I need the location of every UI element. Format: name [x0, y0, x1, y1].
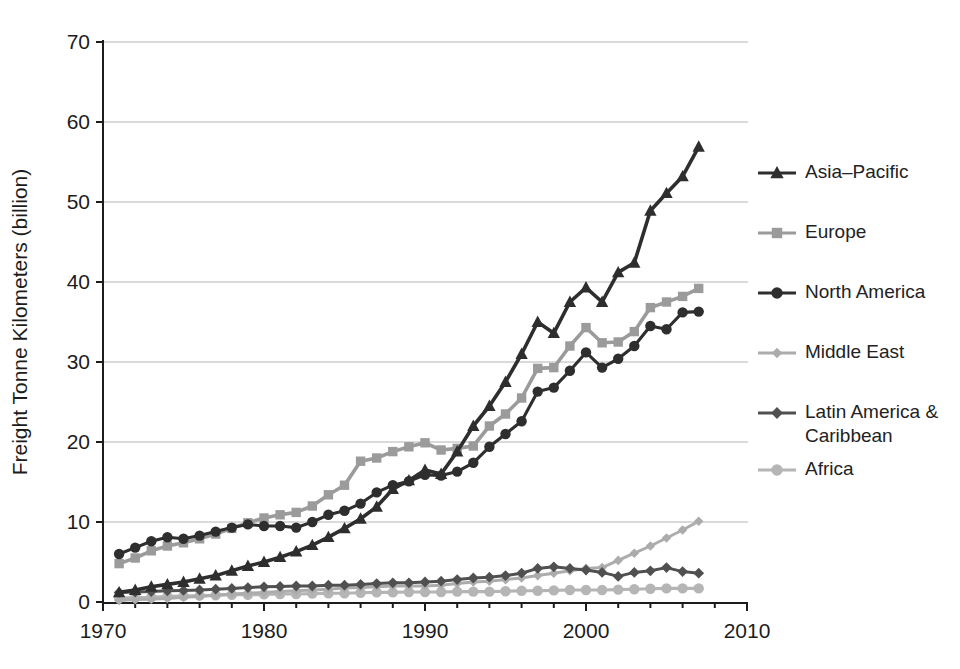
data-point-marker [614, 337, 623, 346]
data-point-marker [147, 546, 156, 555]
data-point-marker [468, 458, 478, 468]
diamond-marker-icon [756, 405, 798, 421]
data-point-marker [580, 281, 592, 292]
data-point-marker [549, 363, 558, 372]
data-point-marker [275, 521, 285, 531]
data-point-marker [130, 542, 140, 552]
data-point-marker [516, 416, 526, 426]
data-point-marker [292, 508, 301, 517]
series-line [119, 312, 699, 554]
data-point-marker [771, 287, 782, 298]
legend-label: North America [805, 280, 941, 304]
data-point-marker [162, 532, 172, 542]
data-point-marker [532, 563, 543, 574]
data-point-marker [452, 466, 462, 476]
data-point-marker [469, 441, 478, 450]
triangle-marker-icon [756, 165, 798, 181]
data-point-marker [484, 586, 494, 596]
data-point-marker [630, 548, 640, 558]
data-point-marker [485, 421, 494, 430]
data-point-marker [211, 526, 221, 536]
data-point-marker [613, 571, 624, 582]
data-point-marker [646, 541, 656, 551]
data-point-marker [677, 583, 687, 593]
data-point-marker [661, 562, 672, 573]
data-point-marker [533, 364, 542, 373]
data-point-marker [114, 549, 124, 559]
data-point-marker [324, 490, 333, 499]
data-point-marker [662, 297, 671, 306]
data-point-marker [645, 321, 655, 331]
data-point-marker [629, 341, 639, 351]
legend-item-north-america: North America [756, 280, 941, 304]
data-point-marker [565, 366, 575, 376]
data-point-marker [146, 536, 156, 546]
data-point-marker [194, 530, 204, 540]
series-asia-pacific [113, 140, 705, 597]
diamond-marker-icon [756, 345, 798, 361]
data-point-marker [694, 306, 704, 316]
data-point-marker [372, 453, 381, 462]
y-tick-label: 70 [67, 30, 90, 53]
data-point-marker [677, 307, 687, 317]
y-tick-label: 30 [67, 350, 90, 373]
data-point-marker [500, 586, 510, 596]
legend-item-middle-east: Middle East [756, 340, 941, 364]
data-point-marker [581, 323, 590, 332]
data-point-marker [163, 541, 172, 550]
data-point-marker [581, 585, 591, 595]
y-tick-label: 20 [67, 430, 90, 453]
x-axis-tick-labels: 19701980199020002010 [80, 619, 771, 642]
series-europe [114, 284, 703, 569]
data-point-marker [549, 585, 559, 595]
data-point-marker [388, 447, 397, 456]
data-point-marker [404, 442, 413, 451]
data-point-marker [677, 566, 688, 577]
x-tick-label: 2000 [563, 619, 610, 642]
data-point-marker [771, 464, 782, 475]
legend-label: Middle East [805, 340, 941, 364]
data-point-marker [501, 409, 510, 418]
legend-label: Africa [805, 457, 941, 481]
circle-marker-icon [756, 285, 798, 301]
data-point-marker [291, 522, 301, 532]
data-point-marker [178, 534, 188, 544]
data-point-marker [533, 586, 543, 596]
data-point-marker [420, 438, 429, 447]
data-point-marker [565, 585, 575, 595]
legend: Asia–PacificEuropeNorth AmericaMiddle Ea… [756, 0, 956, 669]
data-point-marker [694, 583, 704, 593]
data-point-marker [645, 565, 656, 576]
y-tick-label: 0 [78, 590, 90, 613]
data-point-marker [500, 429, 510, 439]
data-point-marker [340, 481, 349, 490]
data-point-marker [597, 338, 606, 347]
x-tick-label: 1970 [80, 619, 127, 642]
data-point-marker [629, 584, 639, 594]
data-point-marker [646, 303, 655, 312]
data-point-marker [419, 464, 431, 475]
y-axis-tick-labels: 010203040506070 [67, 30, 90, 613]
data-point-marker [661, 324, 671, 334]
data-point-marker [259, 581, 270, 592]
data-point-marker [275, 510, 284, 519]
legend-item-latin-america-caribbean: Latin America & Caribbean [756, 400, 941, 448]
y-tick-label: 40 [67, 270, 90, 293]
data-point-marker [516, 586, 526, 596]
series-line [119, 147, 699, 593]
data-point-marker [565, 341, 574, 350]
square-marker-icon [756, 225, 798, 241]
data-point-marker [436, 445, 445, 454]
data-point-marker [597, 585, 607, 595]
data-point-marker [517, 393, 526, 402]
data-point-marker [549, 382, 559, 392]
data-point-marker [114, 559, 123, 568]
legend-label: Asia–Pacific [805, 160, 941, 184]
legend-label: Latin America & Caribbean [805, 400, 941, 448]
data-point-marker [693, 568, 704, 579]
data-point-marker [533, 386, 543, 396]
data-point-marker [628, 256, 640, 267]
data-point-marker [581, 347, 591, 357]
data-point-marker [548, 561, 559, 572]
y-axis-title: Freight Tonne Kilometers (billion) [8, 169, 31, 476]
